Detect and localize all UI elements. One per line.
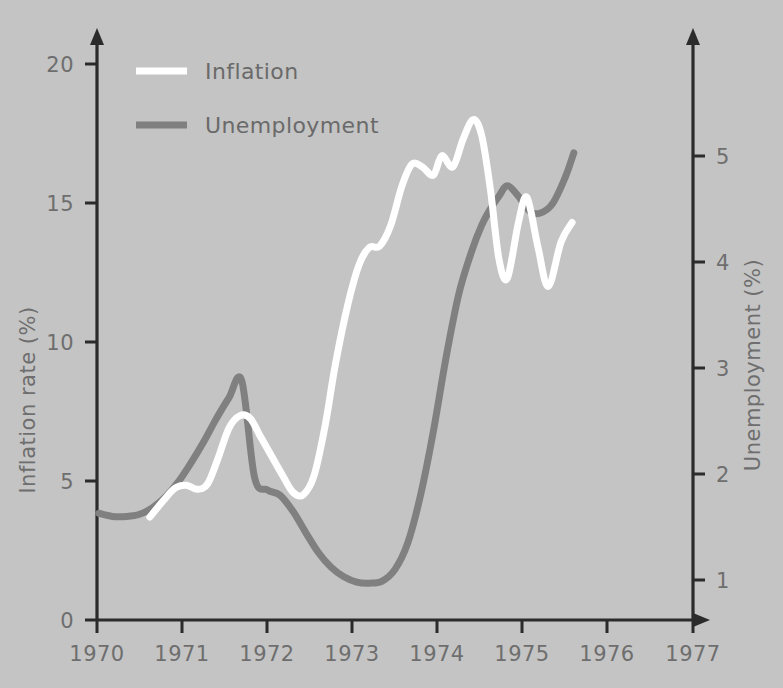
y2-tick-label-1: 1 — [716, 569, 730, 593]
y-axis-right-ticks — [693, 156, 705, 580]
legend-label-unemployment: Unemployment — [205, 113, 379, 138]
y-axis-left-tick-labels: 0 5 10 15 20 — [46, 53, 74, 633]
y-axis-right-title: Unemployment (%) — [741, 259, 765, 471]
y2-tick-label-2: 2 — [716, 463, 730, 487]
chart-legend: Inflation Unemployment — [136, 59, 379, 138]
y-axis-left-ticks — [85, 64, 97, 620]
axes-group — [90, 28, 710, 627]
series-line-inflation — [150, 120, 572, 518]
inflation-unemployment-chart: 1970 1971 1972 1973 1974 1975 1976 1977 … — [0, 0, 783, 688]
x-tick-label-1972: 1972 — [239, 642, 294, 666]
x-tick-label-1976: 1976 — [579, 642, 634, 666]
x-tick-label-1975: 1975 — [494, 642, 549, 666]
x-axis-arrowhead — [693, 613, 710, 627]
y2-tick-label-3: 3 — [716, 357, 730, 381]
y-tick-label-10: 10 — [46, 331, 74, 355]
y-axis-right-arrowhead — [686, 28, 700, 45]
x-tick-label-1974: 1974 — [409, 642, 464, 666]
x-tick-label-1977: 1977 — [665, 642, 720, 666]
x-axis-ticks — [97, 620, 693, 633]
y-axis-left-arrowhead — [90, 28, 104, 45]
y-tick-label-0: 0 — [60, 609, 74, 633]
chart-plot-area: 1970 1971 1972 1973 1974 1975 1976 1977 … — [0, 0, 783, 688]
y-axis-right-tick-labels: 1 2 3 4 5 — [716, 145, 730, 593]
x-tick-label-1973: 1973 — [324, 642, 379, 666]
x-axis-tick-labels: 1970 1971 1972 1973 1974 1975 1976 1977 — [69, 642, 720, 666]
x-tick-label-1970: 1970 — [69, 642, 124, 666]
y2-tick-label-4: 4 — [716, 251, 730, 275]
y2-tick-label-5: 5 — [716, 145, 730, 169]
legend-label-inflation: Inflation — [205, 59, 299, 84]
y-tick-label-5: 5 — [60, 470, 74, 494]
y-tick-label-15: 15 — [46, 192, 74, 216]
x-tick-label-1971: 1971 — [154, 642, 209, 666]
y-axis-left-title: Inflation rate (%) — [16, 306, 40, 493]
y-tick-label-20: 20 — [46, 53, 74, 77]
